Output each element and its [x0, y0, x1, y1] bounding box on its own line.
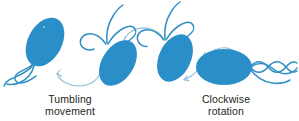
cell-highlight-speck [43, 26, 45, 28]
caption-clockwise-rotation: Clockwise rotation [176, 94, 276, 117]
caption-tumbling-line1: Tumbling [22, 94, 118, 106]
caption-clockwise-line2: rotation [176, 106, 276, 118]
bacterium-cell-4 [196, 49, 252, 85]
caption-tumbling-line2: movement [22, 106, 118, 118]
figure-root: Tumbling movement Clockwise rotation [0, 0, 299, 121]
caption-clockwise-line1: Clockwise [176, 94, 276, 106]
caption-tumbling-movement: Tumbling movement [22, 94, 118, 117]
